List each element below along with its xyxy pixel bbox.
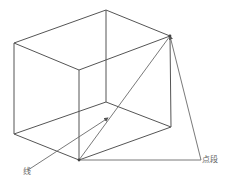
vertex-dot-top-right [169, 35, 172, 38]
edge-bottom-back-right [106, 102, 171, 127]
wireframe-box-diagram [0, 0, 229, 188]
label-point-segment: 点段 [202, 156, 218, 164]
edge-top-front-left [14, 43, 79, 70]
space-diagonal [79, 36, 170, 160]
edge-bottom-left-back [14, 102, 106, 134]
segment-rising [170, 36, 201, 160]
edge-top-back-right [106, 10, 170, 36]
edge-vertical-right [170, 36, 171, 127]
edge-top-left-back [14, 10, 106, 43]
box-edges [14, 10, 171, 160]
vertex-dot-bottom-front [78, 159, 81, 162]
label-line: 线 [23, 168, 31, 176]
edge-bottom-front-left [14, 134, 79, 160]
edge-top-right-front [79, 36, 170, 70]
edge-bottom-right-front [79, 127, 171, 160]
